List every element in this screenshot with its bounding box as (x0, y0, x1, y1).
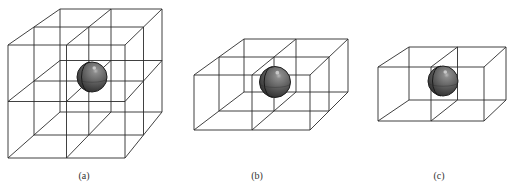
grid-edge (431, 47, 458, 67)
panel-c (378, 47, 506, 121)
caption-c: (c) (433, 170, 444, 181)
caption-a: (a) (78, 170, 89, 181)
grid-edge (378, 100, 409, 121)
sphere-highlight (275, 71, 279, 75)
sphere-c (428, 66, 458, 96)
grid-edge (484, 47, 506, 67)
sphere-b (260, 67, 291, 98)
grid-edge (484, 100, 506, 121)
grid-edge (378, 47, 409, 67)
panel-a (8, 9, 162, 158)
panel-b (194, 39, 348, 130)
wireframe-cube-figure (0, 0, 514, 190)
sphere-highlight (92, 66, 96, 70)
sphere-a (77, 62, 107, 92)
caption-b: (b) (251, 170, 263, 181)
sphere-highlight (443, 70, 447, 74)
grid-edge (431, 100, 458, 121)
